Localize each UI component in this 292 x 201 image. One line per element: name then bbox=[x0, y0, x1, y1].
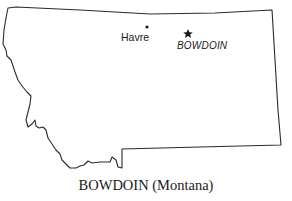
bowdoin-star-icon bbox=[183, 29, 193, 38]
havre-label: Havre bbox=[121, 31, 149, 43]
havre-dot-icon bbox=[145, 25, 148, 28]
bowdoin-label: BOWDOIN bbox=[177, 40, 227, 51]
map-caption: BOWDOIN (Montana) bbox=[0, 177, 292, 194]
